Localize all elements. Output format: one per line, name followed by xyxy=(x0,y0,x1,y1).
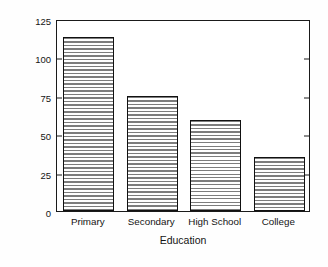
y-tick-label: 50 xyxy=(40,131,51,142)
bar-high-school xyxy=(190,120,241,211)
y-tick-mark xyxy=(57,174,62,175)
y-tick-mark xyxy=(57,59,62,60)
bar-college xyxy=(254,157,305,211)
x-axis-title: Education xyxy=(56,234,310,246)
x-tick-label: Secondary xyxy=(128,216,175,227)
y-tick-mark-right xyxy=(304,97,309,98)
y-tick-label: 75 xyxy=(40,92,51,103)
y-tick-mark xyxy=(57,136,62,137)
y-tick-label: 125 xyxy=(35,16,51,27)
x-tick-label: Primary xyxy=(71,216,105,227)
x-tick-label: College xyxy=(262,216,295,227)
y-tick-label: 100 xyxy=(35,54,51,65)
y-tick-mark-right xyxy=(304,59,309,60)
bar-primary xyxy=(63,37,114,211)
bar-chart-figure: Standardized Incidence Ratio 02550751001… xyxy=(0,0,328,267)
y-tick-mark-right xyxy=(304,136,309,137)
y-tick-mark xyxy=(57,97,62,98)
bar-secondary xyxy=(127,96,178,211)
y-tick-mark-right xyxy=(304,174,309,175)
y-tick-label: 25 xyxy=(40,169,51,180)
plot-area: Standardized Incidence Ratio 02550751001… xyxy=(56,20,310,212)
x-tick-label: High School xyxy=(188,216,241,227)
y-tick-label: 0 xyxy=(46,208,51,219)
